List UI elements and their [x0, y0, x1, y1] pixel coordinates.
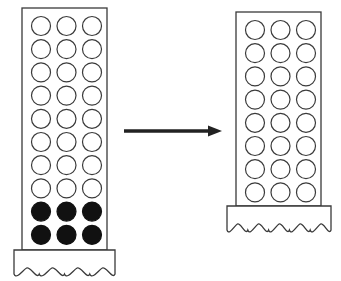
- empty-well: [297, 183, 316, 202]
- empty-well: [297, 160, 316, 179]
- empty-well: [57, 133, 76, 152]
- empty-well: [271, 67, 290, 86]
- filled-well: [32, 225, 51, 244]
- empty-well: [83, 156, 102, 175]
- left-column-base: [14, 250, 115, 276]
- empty-well: [271, 21, 290, 40]
- arrow-icon: [124, 126, 222, 137]
- empty-well: [271, 44, 290, 63]
- empty-well: [271, 90, 290, 109]
- empty-well: [57, 179, 76, 198]
- empty-well: [297, 44, 316, 63]
- empty-well: [83, 86, 102, 105]
- empty-well: [297, 67, 316, 86]
- filled-well: [32, 202, 51, 221]
- empty-well: [271, 113, 290, 132]
- empty-well: [271, 137, 290, 156]
- empty-well: [57, 109, 76, 128]
- empty-well: [32, 179, 51, 198]
- empty-well: [32, 86, 51, 105]
- empty-well: [32, 40, 51, 59]
- empty-well: [271, 160, 290, 179]
- empty-well: [83, 40, 102, 59]
- empty-well: [57, 17, 76, 36]
- left-column-figure: [14, 8, 115, 276]
- empty-well: [246, 113, 265, 132]
- empty-well: [246, 183, 265, 202]
- right-column-figure: [227, 12, 331, 232]
- empty-well: [32, 156, 51, 175]
- empty-well: [297, 113, 316, 132]
- empty-well: [57, 156, 76, 175]
- diagram-canvas: [0, 0, 341, 281]
- empty-well: [32, 133, 51, 152]
- empty-well: [32, 109, 51, 128]
- empty-well: [83, 133, 102, 152]
- empty-well: [297, 21, 316, 40]
- empty-well: [83, 179, 102, 198]
- empty-well: [32, 17, 51, 36]
- empty-well: [57, 40, 76, 59]
- filled-well: [57, 225, 76, 244]
- empty-well: [246, 137, 265, 156]
- empty-well: [32, 63, 51, 82]
- empty-well: [246, 90, 265, 109]
- empty-well: [57, 86, 76, 105]
- right-column-base: [227, 206, 331, 232]
- empty-well: [83, 109, 102, 128]
- empty-well: [246, 160, 265, 179]
- empty-well: [83, 63, 102, 82]
- filled-well: [83, 202, 102, 221]
- empty-well: [83, 17, 102, 36]
- empty-well: [297, 137, 316, 156]
- filled-well: [57, 202, 76, 221]
- empty-well: [246, 67, 265, 86]
- empty-well: [297, 90, 316, 109]
- empty-well: [57, 63, 76, 82]
- filled-well: [83, 225, 102, 244]
- empty-well: [246, 44, 265, 63]
- empty-well: [271, 183, 290, 202]
- empty-well: [246, 21, 265, 40]
